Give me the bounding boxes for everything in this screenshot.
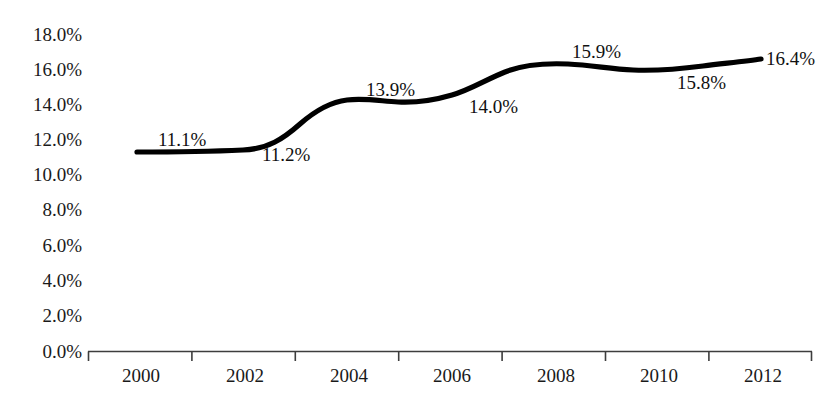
y-tick-label: 6.0% [4, 236, 82, 255]
chart-plot-area [0, 0, 826, 416]
data-point-label: 16.4% [766, 49, 815, 68]
x-tick-label: 2008 [516, 366, 596, 385]
y-tick-label: 2.0% [4, 306, 82, 325]
y-tick-label: 4.0% [4, 271, 82, 290]
data-point-label: 11.1% [158, 130, 206, 149]
x-axis [88, 352, 812, 362]
data-point-label: 15.8% [677, 73, 726, 92]
y-tick-label: 12.0% [4, 130, 82, 149]
y-tick-label: 0.0% [4, 342, 82, 361]
y-tick-label: 10.0% [4, 165, 82, 184]
data-point-label: 14.0% [469, 97, 518, 116]
y-tick-label: 18.0% [4, 25, 82, 44]
line-chart: 18.0% 16.0% 14.0% 12.0% 10.0% 8.0% 6.0% … [0, 0, 826, 416]
y-tick-label: 8.0% [4, 200, 82, 219]
x-tick-label: 2012 [723, 366, 803, 385]
x-tick-label: 2002 [205, 366, 285, 385]
y-tick-label: 14.0% [4, 95, 82, 114]
x-tick-label: 2006 [412, 366, 492, 385]
data-point-label: 15.9% [572, 42, 621, 61]
x-tick-label: 2000 [101, 366, 181, 385]
data-point-label: 11.2% [262, 145, 310, 164]
data-point-label: 13.9% [366, 80, 415, 99]
x-tick-label: 2004 [309, 366, 389, 385]
data-series-line [137, 59, 761, 152]
y-tick-label: 16.0% [4, 60, 82, 79]
x-tick-label: 2010 [619, 366, 699, 385]
